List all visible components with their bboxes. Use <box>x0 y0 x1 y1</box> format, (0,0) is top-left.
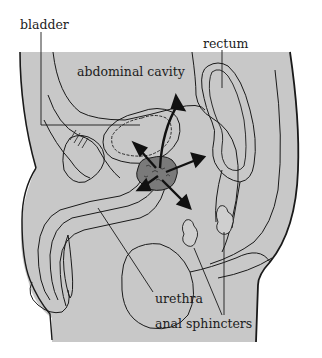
label-abdominal-cavity: abdominal cavity <box>77 66 185 79</box>
label-anal-sphincters: anal sphincters <box>155 318 252 331</box>
label-bladder: bladder <box>20 19 69 32</box>
label-rectum: rectum <box>203 38 248 51</box>
label-urethra: urethra <box>155 293 203 306</box>
pelvis-diagram: bladder rectum abdominal cavity urethra … <box>0 0 322 358</box>
